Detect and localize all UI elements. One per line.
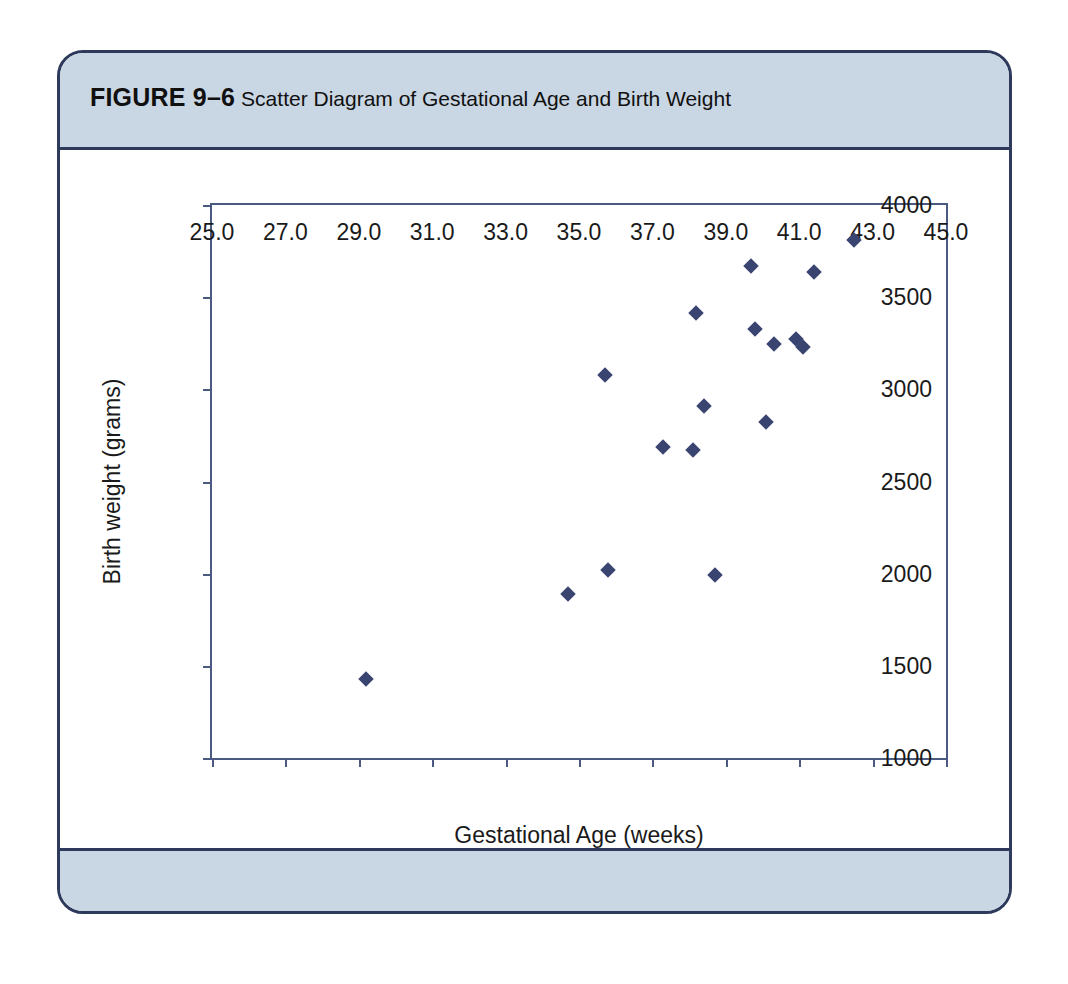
scatter-point (656, 439, 672, 455)
x-axis-tick-label: 31.0 (410, 219, 455, 246)
x-axis-tick (726, 758, 728, 767)
x-axis-tick-label: 35.0 (557, 219, 602, 246)
x-axis-tick (506, 758, 508, 767)
figure-number: FIGURE 9–6 (90, 83, 235, 111)
y-axis-tick-label: 2500 (881, 468, 932, 495)
x-axis-tick (432, 758, 434, 767)
y-axis-tick (203, 297, 212, 299)
scatter-point (707, 567, 723, 583)
x-axis-tick (579, 758, 581, 767)
x-axis-tick (873, 758, 875, 767)
scatter-point (758, 414, 774, 430)
plot-frame: 100015002000250030003500400025.027.029.0… (210, 203, 948, 760)
scatter-point (601, 562, 617, 578)
scatter-point (766, 336, 782, 352)
y-axis-tick-label: 3500 (881, 284, 932, 311)
x-axis-tick-label: 39.0 (703, 219, 748, 246)
x-axis-tick-label: 37.0 (630, 219, 675, 246)
y-axis-tick (203, 758, 212, 760)
y-axis-tick (203, 389, 212, 391)
scatter-point (358, 671, 374, 687)
scatter-point (744, 258, 760, 274)
figure-title: Scatter Diagram of Gestational Age and B… (235, 87, 731, 110)
y-axis-tick (203, 666, 212, 668)
y-axis-tick-label: 1000 (881, 745, 932, 772)
scatter-point (806, 264, 822, 280)
y-axis-tick-label: 1500 (881, 652, 932, 679)
x-axis-tick (285, 758, 287, 767)
scatter-point (560, 587, 576, 603)
scatter-point (747, 322, 763, 338)
x-axis-tick (652, 758, 654, 767)
chart-area: Birth weight (grams) 1000150020002500300… (60, 150, 1009, 848)
y-axis-tick (203, 482, 212, 484)
x-axis-tick (946, 758, 948, 767)
y-axis-tick-label: 3000 (881, 376, 932, 403)
x-axis-tick (212, 758, 214, 767)
x-axis-tick-label: 25.0 (190, 219, 235, 246)
x-axis-tick-label: 27.0 (263, 219, 308, 246)
x-axis-tick-label: 41.0 (777, 219, 822, 246)
x-axis-title-label: Gestational Age (weeks) (454, 822, 703, 848)
y-axis-title-label: Birth weight (grams) (100, 379, 127, 585)
figure-caption: FIGURE 9–6Scatter Diagram of Gestational… (90, 83, 731, 112)
scatter-point (689, 305, 705, 321)
scatter-point (597, 367, 613, 383)
y-axis-title: Birth weight (grams) (98, 203, 128, 760)
y-axis-tick-label: 4000 (881, 192, 932, 219)
x-axis-tick-label: 33.0 (483, 219, 528, 246)
x-axis-tick-label: 29.0 (336, 219, 381, 246)
y-axis-tick-label: 2000 (881, 560, 932, 587)
figure-header-band: FIGURE 9–6Scatter Diagram of Gestational… (60, 53, 1009, 150)
scatter-point (696, 398, 712, 414)
y-axis-tick (203, 574, 212, 576)
x-axis-tick-label: 45.0 (924, 219, 969, 246)
x-axis-tick (799, 758, 801, 767)
figure-container: FIGURE 9–6Scatter Diagram of Gestational… (57, 50, 1012, 914)
x-axis-tick (359, 758, 361, 767)
x-axis-title: Gestational Age (weeks) (210, 822, 948, 849)
figure-footer-band (60, 848, 1009, 911)
y-axis-tick (203, 205, 212, 207)
scatter-point (685, 442, 701, 458)
